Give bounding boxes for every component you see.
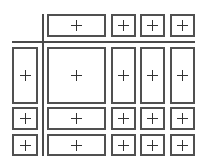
grid-cell xyxy=(170,14,195,37)
plus-icon xyxy=(118,140,129,151)
plus-icon xyxy=(20,113,31,124)
plus-icon xyxy=(20,140,31,151)
plus-icon xyxy=(147,113,158,124)
grid-cell xyxy=(140,14,165,37)
grid-cell xyxy=(12,47,38,104)
plus-icon xyxy=(118,20,129,31)
plus-icon xyxy=(118,70,129,81)
grid-cell xyxy=(111,47,136,104)
plus-icon xyxy=(71,140,82,151)
plus-icon xyxy=(177,113,188,124)
plus-icon xyxy=(177,140,188,151)
grid-cell xyxy=(170,107,195,130)
vertical-divider xyxy=(42,14,44,156)
plus-icon xyxy=(147,70,158,81)
grid-cell xyxy=(47,14,106,37)
plus-icon xyxy=(20,70,31,81)
plus-icon xyxy=(147,20,158,31)
grid-cell xyxy=(12,134,38,156)
plus-icon xyxy=(71,70,82,81)
plus-icon xyxy=(118,113,129,124)
plus-icon xyxy=(71,20,82,31)
grid-cell xyxy=(111,134,136,156)
plus-icon xyxy=(177,70,188,81)
grid-cell xyxy=(140,134,165,156)
grid-cell xyxy=(47,47,106,104)
horizontal-divider xyxy=(12,41,195,43)
grid-cell xyxy=(140,47,165,104)
grid-cell xyxy=(111,14,136,37)
plus-icon xyxy=(177,20,188,31)
plus-icon xyxy=(147,140,158,151)
grid-cell xyxy=(111,107,136,130)
grid-cell xyxy=(12,107,38,130)
grid-cell xyxy=(170,134,195,156)
grid-cell xyxy=(170,47,195,104)
grid-cell xyxy=(140,107,165,130)
grid-cell xyxy=(47,134,106,156)
plus-icon xyxy=(71,113,82,124)
grid-cell xyxy=(47,107,106,130)
